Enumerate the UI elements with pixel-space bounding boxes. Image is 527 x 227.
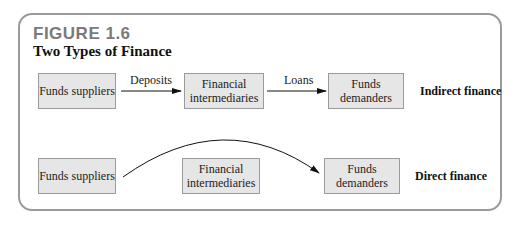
indirect-financial-intermediaries-box: Financial intermediaries	[184, 73, 264, 109]
indirect-funds-demanders-box: Funds demanders	[328, 73, 404, 109]
box-label: Funds demanders	[325, 162, 399, 190]
direct-funds-suppliers-box: Funds suppliers	[38, 158, 116, 194]
box-label: Funds suppliers	[39, 84, 115, 98]
direct-funds-demanders-box: Funds demanders	[324, 158, 400, 194]
direct-financial-intermediaries-box: Financial intermediaries	[182, 158, 260, 194]
direct-finance-label: Direct finance	[415, 169, 487, 184]
box-label: Funds suppliers	[39, 169, 115, 183]
loans-label: Loans	[284, 73, 313, 88]
deposits-label: Deposits	[130, 73, 172, 88]
indirect-funds-suppliers-box: Funds suppliers	[38, 73, 116, 109]
indirect-finance-label: Indirect finance	[420, 84, 501, 99]
box-label: Funds demanders	[329, 77, 403, 105]
box-label: Financial intermediaries	[185, 77, 263, 105]
box-label: Financial intermediaries	[183, 162, 259, 190]
